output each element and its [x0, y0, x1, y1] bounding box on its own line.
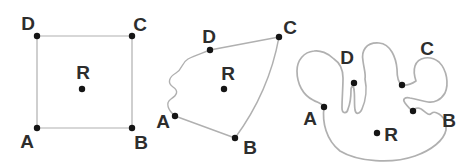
irregular-quadrilateral-figure-point-d-dot: [207, 47, 213, 53]
irregular-quadrilateral-figure-point-a-label: A: [156, 111, 170, 132]
blob-curve-figure-point-c-label: C: [420, 38, 434, 59]
blob-curve-figure-point-r-dot: [374, 130, 380, 136]
blob-curve-figure-outline: [297, 43, 447, 161]
square-figure-point-c-label: C: [133, 14, 147, 35]
square-figure-point-a-dot: [34, 125, 40, 131]
blob-curve-figure-point-a-dot: [321, 104, 327, 110]
square-figure-point-d-label: D: [21, 13, 35, 34]
square-figure-point-a-label: A: [20, 131, 34, 152]
blob-curve-figure-point-d-dot: [351, 80, 357, 86]
blob-curve-figure-point-c-dot: [399, 82, 405, 88]
irregular-quadrilateral-figure-point-a-dot: [172, 113, 178, 119]
square-figure-point-b-label: B: [134, 132, 148, 153]
square-figure-point-r-dot: [79, 86, 85, 92]
irregular-quadrilateral-figure-point-d-label: D: [202, 26, 216, 47]
blob-curve-figure-point-d-label: D: [340, 47, 354, 68]
blob-curve-figure-point-a-label: A: [303, 108, 317, 129]
irregular-quadrilateral-figure-point-r-label: R: [221, 63, 235, 84]
irregular-quadrilateral-figure-point-c-dot: [276, 34, 282, 40]
blob-curve-figure-point-b-label: B: [442, 110, 456, 131]
geometry-figures-svg: DCABRDCABRDCABR: [0, 0, 468, 165]
blob-curve-figure-point-b-dot: [410, 108, 416, 114]
irregular-quadrilateral-figure-point-b-dot: [232, 135, 238, 141]
square-figure-point-r-label: R: [76, 62, 90, 83]
irregular-quadrilateral-figure-point-b-label: B: [243, 137, 257, 158]
irregular-quadrilateral-figure-point-c-label: C: [283, 17, 297, 38]
diagram-canvas: DCABRDCABRDCABR: [0, 0, 468, 165]
irregular-quadrilateral-figure-point-r-dot: [221, 86, 227, 92]
square-figure-point-b-dot: [129, 125, 135, 131]
blob-curve-figure-point-r-label: R: [384, 124, 398, 145]
